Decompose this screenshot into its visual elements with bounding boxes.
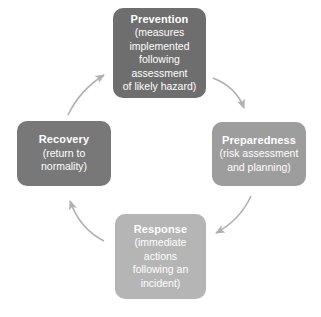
stage-description-line: assessment (123, 67, 197, 81)
stage-title-recovery: Recovery (39, 133, 89, 147)
stage-box-preparedness[interactable]: Preparedness (risk assessment and planni… (212, 122, 306, 186)
stage-description-line: actions (133, 250, 188, 264)
stage-title-preparedness: Preparedness (222, 134, 296, 148)
arrow-preparedness-to-response (216, 196, 251, 233)
stage-description-line: following an (133, 263, 188, 277)
stage-box-response[interactable]: Response (immediate actions following an… (115, 214, 206, 299)
stage-description-prevention: (measures implemented following assessme… (123, 26, 197, 94)
disaster-management-cycle-diagram: Prevention (measures implemented followi… (0, 0, 321, 317)
stage-description-preparedness: (risk assessment and planning) (220, 147, 299, 174)
stage-description-line: (return to (41, 147, 87, 161)
stage-box-prevention[interactable]: Prevention (measures implemented followi… (113, 8, 206, 98)
arrow-recovery-to-prevention (68, 75, 104, 115)
stage-description-line: incident) (133, 277, 188, 291)
stage-description-recovery: (return to normality) (41, 147, 87, 174)
stage-description-line: of likely hazard) (123, 80, 197, 94)
stage-title-response: Response (134, 223, 187, 237)
stage-description-line: (immediate (133, 236, 188, 250)
arrow-prevention-to-preparedness (213, 78, 244, 108)
stage-description-line: normality) (41, 160, 87, 174)
stage-description-line: following (123, 53, 197, 67)
stage-description-line: implemented (123, 40, 197, 54)
stage-description-line: and planning) (220, 161, 299, 175)
stage-description-response: (immediate actions following an incident… (133, 236, 188, 290)
stage-description-line: (measures (123, 26, 197, 40)
stage-title-prevention: Prevention (131, 13, 189, 27)
stage-description-line: (risk assessment (220, 147, 299, 161)
arrow-response-to-recovery (70, 201, 104, 241)
stage-box-recovery[interactable]: Recovery (return to normality) (17, 121, 111, 186)
